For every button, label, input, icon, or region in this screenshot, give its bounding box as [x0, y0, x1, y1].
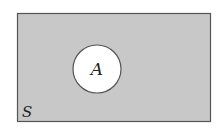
set-a-label: A: [89, 59, 103, 79]
universal-set-label: S: [22, 103, 32, 121]
venn-diagram: A S: [0, 0, 222, 128]
